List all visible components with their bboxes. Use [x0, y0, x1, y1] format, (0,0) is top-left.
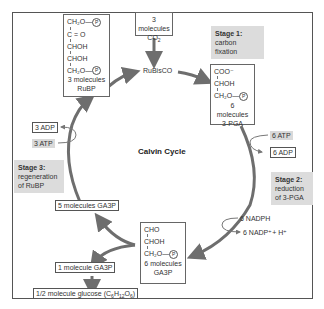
pga-name: 3-PGA	[214, 119, 251, 128]
ga3p-name: GA3P	[144, 268, 182, 277]
phosphate-icon: P	[92, 18, 101, 27]
stage-1-label: Stage 1:carbon fixation	[211, 26, 264, 59]
co2-box: 3 molecules CO2	[135, 12, 173, 36]
ga3p-1-label: 1 molecule GA3P	[55, 262, 115, 273]
pga-box: COO⁻ CHOH CH₂O—P 6 molecules 3-PGA	[210, 64, 255, 125]
diagram-title: Calvin Cycle	[138, 147, 186, 156]
ga3p-box: CHO CHOH CH₂O—P 6 molecules GA3P	[140, 222, 186, 284]
adp6-label: 6 ADP	[270, 147, 296, 158]
rubp-caption: 3 molecules	[67, 75, 106, 84]
nadph-label: 6 NADPH	[240, 214, 270, 223]
rubisco-enzyme-label: RuBisCO	[143, 66, 172, 75]
glucose-label: 1/2 molecule glucose (C6H12O6)	[33, 288, 138, 299]
adp3-label: 3 ADP	[32, 122, 58, 133]
atp3-label: 3 ATP	[32, 139, 55, 148]
phosphate-icon: P	[239, 92, 248, 101]
atp6-label: 6 ATP	[270, 131, 293, 140]
stage-3-label: Stage 3:regenerationof RuBP	[14, 160, 64, 193]
nadp-label: 6 NADP⁺+ H⁺	[243, 228, 287, 237]
stage-2-label: Stage 2:reductionof 3-PGA	[271, 172, 313, 205]
pga-caption: 6 molecules	[214, 101, 251, 119]
phosphate-icon: P	[169, 250, 178, 259]
rubp-box: CH₂O—P C = O CHOH CHOH CH₂O—P 3 molecule…	[63, 14, 110, 97]
ga3p-5-label: 5 molecules GA3P	[55, 200, 119, 211]
ga3p-caption: 6 molecules	[144, 259, 182, 268]
co2-count: 3 molecules	[136, 15, 172, 33]
phosphate-icon: P	[92, 66, 101, 75]
rubp-name: RuBP	[67, 84, 106, 93]
co2-formula: CO2	[136, 33, 172, 42]
